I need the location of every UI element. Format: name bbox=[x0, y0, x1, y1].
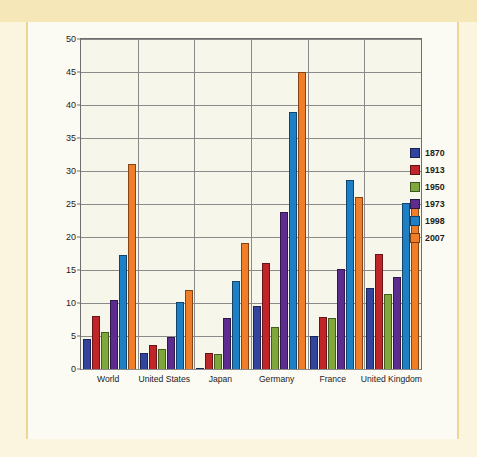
bar[interactable] bbox=[384, 294, 392, 369]
page-frame-bottom bbox=[0, 439, 477, 457]
chart-page: Exports as Percent of GDP 05101520253035… bbox=[0, 0, 477, 457]
legend-swatch-icon bbox=[410, 165, 420, 175]
bar[interactable] bbox=[402, 203, 410, 369]
plot-area: 05101520253035404550 bbox=[80, 38, 422, 370]
y-tick-label: 5 bbox=[71, 331, 76, 341]
bar-group bbox=[251, 39, 308, 369]
chart-card: Exports as Percent of GDP 05101520253035… bbox=[28, 22, 457, 439]
bar[interactable] bbox=[83, 339, 91, 369]
bar[interactable] bbox=[280, 212, 288, 369]
bar[interactable] bbox=[185, 290, 193, 369]
bar[interactable] bbox=[205, 353, 213, 369]
bar-groups bbox=[81, 39, 421, 369]
bar[interactable] bbox=[119, 255, 127, 369]
x-axis-label: Germany bbox=[249, 374, 305, 384]
bar[interactable] bbox=[140, 353, 148, 370]
bar[interactable] bbox=[149, 345, 157, 369]
x-axis-label: Japan bbox=[192, 374, 248, 384]
page-frame-left bbox=[0, 0, 28, 457]
bar[interactable] bbox=[158, 349, 166, 369]
bar-group bbox=[81, 39, 138, 369]
x-axis-label: United Kingdom bbox=[361, 374, 422, 384]
legend-label: 1913 bbox=[425, 165, 445, 175]
bar[interactable] bbox=[167, 337, 175, 369]
legend-item[interactable]: 2007 bbox=[410, 229, 445, 246]
legend-swatch-icon bbox=[410, 148, 420, 158]
legend-item[interactable]: 1998 bbox=[410, 212, 445, 229]
chart-legend: 187019131950197319982007 bbox=[410, 144, 445, 246]
legend-item[interactable]: 1950 bbox=[410, 178, 445, 195]
bar[interactable] bbox=[101, 332, 109, 369]
bar[interactable] bbox=[241, 243, 249, 369]
bar[interactable] bbox=[298, 72, 306, 369]
y-tick-label: 50 bbox=[66, 34, 76, 44]
bar[interactable] bbox=[366, 288, 374, 369]
legend-item[interactable]: 1870 bbox=[410, 144, 445, 161]
legend-label: 2007 bbox=[425, 233, 445, 243]
legend-item[interactable]: 1973 bbox=[410, 195, 445, 212]
bar[interactable] bbox=[92, 316, 100, 369]
y-tick-label: 40 bbox=[66, 100, 76, 110]
legend-swatch-icon bbox=[410, 233, 420, 243]
x-axis-label: World bbox=[80, 374, 136, 384]
bar[interactable] bbox=[328, 318, 336, 369]
x-axis-label: France bbox=[305, 374, 361, 384]
bar[interactable] bbox=[176, 302, 184, 369]
y-tick-label: 45 bbox=[66, 67, 76, 77]
y-tick-label: 25 bbox=[66, 199, 76, 209]
gridline bbox=[81, 369, 421, 370]
page-frame-top bbox=[0, 0, 477, 22]
bar[interactable] bbox=[214, 354, 222, 369]
legend-item[interactable]: 1913 bbox=[410, 161, 445, 178]
bar[interactable] bbox=[253, 306, 261, 369]
bar-chart: Exports as Percent of GDP 05101520253035… bbox=[28, 22, 457, 439]
legend-swatch-icon bbox=[410, 199, 420, 209]
bar[interactable] bbox=[223, 318, 231, 369]
bar[interactable] bbox=[289, 112, 297, 369]
bar[interactable] bbox=[232, 281, 240, 369]
y-tick-label: 15 bbox=[66, 265, 76, 275]
bar-group bbox=[138, 39, 195, 369]
x-axis-label: United States bbox=[136, 374, 192, 384]
bar[interactable] bbox=[375, 254, 383, 370]
bar[interactable] bbox=[319, 317, 327, 369]
bar[interactable] bbox=[271, 327, 279, 369]
y-tick-label: 10 bbox=[66, 298, 76, 308]
y-tick-label: 35 bbox=[66, 133, 76, 143]
y-tick-label: 20 bbox=[66, 232, 76, 242]
bar[interactable] bbox=[393, 277, 401, 369]
legend-label: 1998 bbox=[425, 216, 445, 226]
bar[interactable] bbox=[355, 197, 363, 369]
bar[interactable] bbox=[128, 164, 136, 369]
y-tick-label: 0 bbox=[71, 364, 76, 374]
bar[interactable] bbox=[196, 368, 204, 369]
legend-swatch-icon bbox=[410, 216, 420, 226]
bar[interactable] bbox=[310, 336, 318, 369]
bar[interactable] bbox=[337, 269, 345, 369]
bar-group bbox=[308, 39, 365, 369]
x-axis-labels: WorldUnited StatesJapanGermanyFranceUnit… bbox=[80, 374, 422, 384]
page-frame-right bbox=[457, 0, 477, 457]
bar[interactable] bbox=[262, 263, 270, 369]
legend-swatch-icon bbox=[410, 182, 420, 192]
bar[interactable] bbox=[110, 300, 118, 369]
legend-label: 1870 bbox=[425, 148, 445, 158]
legend-label: 1973 bbox=[425, 199, 445, 209]
bar-group bbox=[194, 39, 251, 369]
legend-label: 1950 bbox=[425, 182, 445, 192]
y-tick-label: 30 bbox=[66, 166, 76, 176]
bar[interactable] bbox=[346, 180, 354, 369]
